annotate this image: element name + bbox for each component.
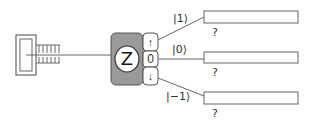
detector-zero: [204, 52, 298, 63]
result-plus-one: ?: [212, 26, 218, 39]
z-analyzer: Z ↑ 0 ↓: [111, 33, 158, 85]
state-label-minus-one: |−1⟩: [166, 90, 190, 103]
result-zero: ?: [212, 66, 218, 79]
state-label-plus-one: |1⟩: [173, 12, 188, 25]
down-arrow-icon: ↓: [148, 70, 154, 82]
analyzer-label: Z: [121, 48, 133, 69]
detector-plus-one: [204, 11, 298, 23]
state-label-zero: |0⟩: [172, 43, 187, 56]
stern-gerlach-diagram: Z ↑ 0 ↓ |1⟩ |0⟩ |−1⟩ ? ? ?: [0, 0, 313, 122]
up-arrow-icon: ↑: [148, 36, 154, 48]
result-minus-one: ?: [212, 107, 218, 120]
detector-minus-one: [204, 92, 298, 104]
zero-port-label: 0: [147, 52, 154, 66]
